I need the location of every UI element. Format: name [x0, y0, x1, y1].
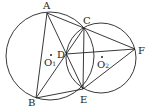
geometry-svg [0, 0, 149, 107]
segment-ce [83, 28, 84, 89]
center-dot-o2 [101, 56, 103, 58]
label-b: B [28, 98, 35, 107]
segment-df [66, 49, 135, 54]
label-o2: O2 [97, 60, 109, 70]
label-d: D [57, 50, 65, 60]
segment-ab [36, 13, 47, 98]
label-a: A [43, 1, 50, 11]
circle-o2 [66, 23, 136, 93]
label-f: F [138, 46, 145, 56]
geometry-figure: A B C D E F O1 O2 [0, 0, 149, 107]
segment-cf [84, 28, 135, 49]
label-c: C [83, 16, 91, 26]
segment-be [36, 89, 83, 98]
center-dot-o1 [50, 54, 52, 56]
label-o1: O1 [44, 58, 56, 68]
label-e: E [80, 95, 87, 105]
